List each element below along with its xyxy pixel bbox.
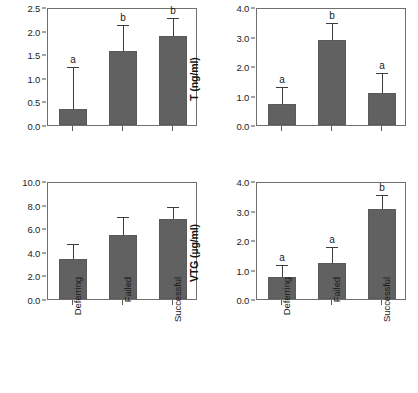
y-tick-label: 3.0 [236, 206, 249, 217]
significance-letter: a [270, 74, 294, 85]
error-bar-cap [167, 207, 179, 208]
bars-container: aba [257, 9, 405, 125]
error-bar [123, 26, 124, 51]
x-axis-label: Deferring [72, 275, 83, 337]
error-bar-cap [326, 247, 338, 248]
bar-group: a [257, 9, 307, 125]
y-tick-mark [251, 67, 255, 68]
plot-area: aba [256, 8, 406, 126]
y-tick-label: 1.0 [27, 73, 40, 84]
y-tick-label: 1.0 [236, 265, 249, 276]
error-bar-cap [117, 25, 129, 26]
y-axis-ticks: 0.01.02.03.04.0 [215, 182, 255, 300]
error-bar-cap [276, 87, 288, 88]
x-axis-label: Failed [122, 275, 133, 337]
x-tick-mark [72, 126, 73, 131]
chart-panel-vldly: VLDLy (mmol/l)0.02.04.06.08.010.0Deferri… [6, 182, 203, 330]
x-tick-mark [122, 126, 123, 131]
bar [59, 109, 87, 125]
error-bar-cap [326, 23, 338, 24]
y-tick-mark [42, 229, 46, 230]
y-tick-label: 2.0 [236, 236, 249, 247]
error-bar-cap [276, 265, 288, 266]
x-axis-labels: DeferringFailedSuccessful [256, 306, 406, 368]
y-tick-label: 1.0 [236, 91, 249, 102]
y-axis-ticks: 0.00.51.01.52.02.5 [6, 8, 46, 126]
y-tick-label: 0.0 [27, 295, 40, 306]
y-axis-title: T (ng/ml) [188, 4, 200, 154]
error-bar [173, 208, 174, 220]
y-axis-title: VTG (µg/ml) [188, 178, 200, 328]
y-tick-mark [42, 8, 46, 9]
y-axis-ticks: 0.01.02.03.04.0 [215, 8, 255, 126]
bar [109, 51, 137, 125]
y-tick-mark [251, 126, 255, 127]
y-tick-mark [251, 182, 255, 183]
error-bar [332, 248, 333, 263]
y-tick-label: 3.0 [236, 32, 249, 43]
x-axis-label-text: Successful [381, 275, 392, 337]
chart-panel-p4: P4 (ng/ml)0.00.51.01.52.02.5abb [6, 8, 203, 156]
y-axis-ticks: 0.02.04.06.08.010.0 [6, 182, 46, 300]
y-tick-mark [251, 8, 255, 9]
x-axis-label-text: Successful [172, 275, 183, 337]
x-axis-label: Failed [331, 275, 342, 337]
x-axis-ticks [47, 126, 197, 132]
x-axis-label: Deferring [281, 275, 292, 337]
x-axis-label-text: Deferring [281, 275, 292, 337]
y-tick-label: 2.0 [236, 62, 249, 73]
error-bar [382, 196, 383, 209]
x-tick-mark [172, 126, 173, 131]
x-axis-label-text: Failed [331, 275, 342, 337]
y-tick-mark [251, 37, 255, 38]
error-bar-cap [67, 67, 79, 68]
y-tick-mark [251, 300, 255, 301]
y-tick-label: 2.0 [27, 26, 40, 37]
x-tick-mark [381, 126, 382, 131]
error-bar [123, 218, 124, 235]
y-tick-label: 4.0 [236, 177, 249, 188]
error-bar [73, 245, 74, 259]
y-tick-label: 4.0 [236, 3, 249, 14]
chart-panel-vtg: VTG (µg/ml)0.01.02.03.04.0aabDeferringFa… [215, 182, 412, 330]
y-tick-mark [42, 205, 46, 206]
y-tick-mark [42, 78, 46, 79]
y-tick-label: 10.0 [22, 177, 40, 188]
error-bar-cap [376, 195, 388, 196]
y-tick-mark [42, 300, 46, 301]
plot-area: abb [47, 8, 197, 126]
error-bar [282, 88, 283, 104]
y-tick-mark [42, 55, 46, 56]
significance-letter: b [320, 10, 344, 21]
x-axis-label-text: Failed [122, 275, 133, 337]
y-tick-label: 4.0 [27, 247, 40, 258]
significance-letter: b [161, 5, 185, 16]
y-tick-mark [42, 252, 46, 253]
y-tick-label: 1.5 [27, 50, 40, 61]
x-tick-mark [281, 126, 282, 131]
bars-container: abb [48, 9, 196, 125]
bar-group: a [48, 9, 98, 125]
error-bar-cap [117, 217, 129, 218]
bar-group: b [307, 9, 357, 125]
y-tick-mark [251, 96, 255, 97]
bar [318, 40, 346, 125]
error-bar-cap [67, 244, 79, 245]
y-tick-mark [42, 276, 46, 277]
y-tick-label: 0.0 [236, 121, 249, 132]
significance-letter: a [370, 60, 394, 71]
x-axis-ticks [256, 126, 406, 132]
x-axis-labels: DeferringFailedSuccessful [47, 306, 197, 368]
y-tick-mark [251, 270, 255, 271]
figure-panel-grid: P4 (ng/ml)0.00.51.01.52.02.5abb T (ng/ml… [0, 0, 418, 393]
y-tick-mark [251, 241, 255, 242]
significance-letter: a [270, 252, 294, 263]
bar [368, 93, 396, 125]
y-tick-label: 6.0 [27, 224, 40, 235]
y-tick-label: 2.5 [27, 3, 40, 14]
y-tick-label: 2.0 [27, 271, 40, 282]
error-bar-cap [376, 73, 388, 74]
error-bar [173, 19, 174, 36]
bar-group: b [98, 9, 148, 125]
significance-letter: b [111, 12, 135, 23]
